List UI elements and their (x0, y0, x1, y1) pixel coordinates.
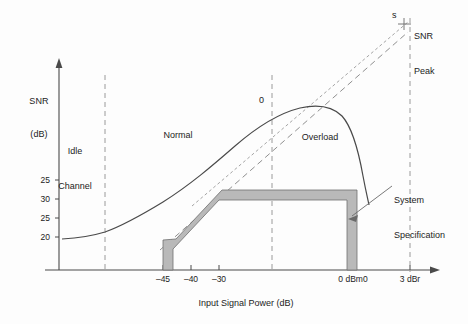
region-label-idle-channel-line1: Idle (46, 146, 104, 158)
region-label-idle-channel: Idle Channel (46, 123, 104, 215)
x-tick-label-3: 0 dBm0 (327, 274, 379, 284)
ideal-slope-upper-dashed (192, 22, 408, 206)
system-specification-label: System Specification (394, 172, 466, 264)
y-tick-label-3: 20 (32, 232, 50, 242)
x-axis-title: Input Signal Power (dB) (166, 298, 326, 308)
system-specification-label-line2: Specification (394, 230, 466, 242)
snr-response-curve (62, 106, 369, 239)
chart-figure: SNR (dB) 25 30 25 20 –45 –40 –30 0 dBm0 … (0, 0, 468, 324)
x-tick-label-0: –45 (148, 274, 178, 284)
x-tick-label-2: –30 (204, 274, 234, 284)
snr-peak-label: SNR Peak (414, 8, 464, 100)
vertical-dashed-lines (105, 18, 410, 272)
x-axis-arrow (430, 267, 440, 274)
region-label-idle-channel-line2: Channel (46, 181, 104, 193)
system-specification-label-line1: System (394, 195, 466, 207)
x-tick-label-4: 3 dBr (388, 274, 432, 284)
point-label-s: s (392, 10, 397, 20)
point-markers (398, 18, 411, 30)
x-tick-label-1: –40 (176, 274, 206, 284)
region-label-overload: Overload (290, 132, 350, 144)
system-specification-mask (163, 190, 357, 270)
y-axis-arrow (56, 58, 63, 68)
region-label-normal: Normal (150, 130, 206, 142)
snr-peak-label-line2: Peak (414, 66, 464, 78)
snr-peak-label-line1: SNR (414, 31, 464, 43)
point-label-zero: 0 (259, 95, 264, 105)
x-axis (45, 265, 440, 273)
y-axis-title-line1: SNR (18, 96, 60, 107)
